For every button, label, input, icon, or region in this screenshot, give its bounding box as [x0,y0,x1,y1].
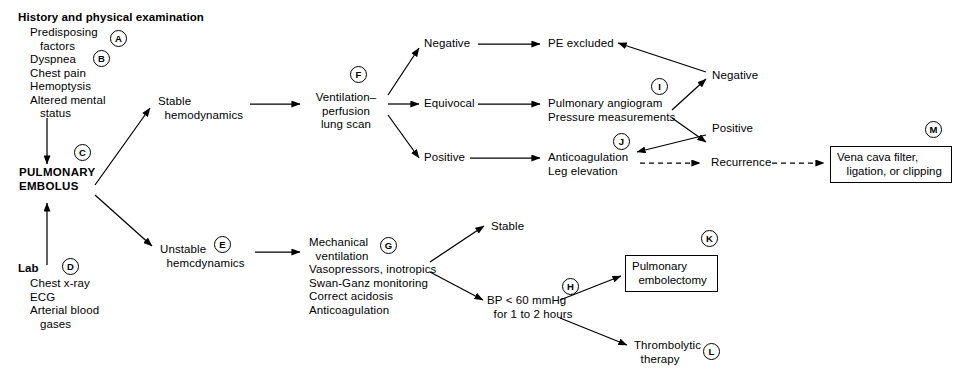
node-stable-hemodynamics: Stable hemodynamics [158,95,243,122]
node-stable-outcome: Stable [491,220,524,234]
node-angio-positive: Positive [712,122,753,136]
lab-heading: Lab [18,262,39,276]
node-pulmonary-embolus: PULMONARY EMBOLUS [19,166,95,193]
lab-items: Chest x-ray ECG Arterial blood gases [30,277,99,331]
node-vq-positive: Positive [424,151,465,165]
connector-angio-positive-to-anticoagulation [637,135,706,152]
node-thrombolytic-therapy: Thrombolytic therapy [634,339,701,366]
node-vena-cava-filter: Vena cava filter, ligation, or clipping [830,146,952,183]
node-vq-negative: Negative [424,37,470,51]
node-pulmonary-embolectomy: Pulmonary embolectomy [625,255,718,292]
marker-d[interactable]: D [62,258,79,275]
node-anticoagulation: Anticoagulation Leg elevation [548,151,628,178]
marker-k[interactable]: K [701,230,718,247]
node-recurrence: Recurrence [711,156,771,170]
node-pe-excluded: PE excluded [548,37,614,51]
marker-j[interactable]: J [613,133,630,150]
node-unstable-hemodynamics: Unstable hemcdynamics [160,243,244,270]
flowchart-canvas: History and physical examination Predisp… [0,0,959,383]
marker-e[interactable]: E [214,236,231,253]
marker-h[interactable]: H [562,278,579,295]
connector-layer [0,0,959,383]
marker-l[interactable]: L [703,343,720,360]
marker-c[interactable]: C [74,144,91,161]
history-heading: History and physical examination [18,11,204,25]
node-angio-negative: Negative [712,69,758,83]
marker-g[interactable]: G [380,237,397,254]
connector-supportive-to-stable [430,226,484,262]
connector-supportive-to-hypotension [430,272,483,300]
connector-angio-negative-to-pe-excluded [618,43,706,72]
node-vq-equivocal: Equivocal [424,97,475,111]
connector-vq-to-negative [388,48,419,95]
connector-angiogram-to-positive [672,118,706,142]
connector-vq-to-positive [388,115,419,158]
connector-angiogram-to-negative [672,79,706,110]
marker-b[interactable]: B [93,50,110,67]
connector-hypotension-to-thrombolytic [560,318,627,345]
history-items: Predisposing factors Dyspnea Chest pain … [30,26,106,121]
connector-embolus-to-unstable [95,195,152,246]
marker-f[interactable]: F [350,66,367,83]
marker-i[interactable]: I [651,78,668,95]
node-vq-scan: Ventilation– perfusion lung scan [303,91,389,132]
node-angiogram: Pulmonary angiogram Pressure measurement… [548,97,675,124]
marker-m[interactable]: M [925,121,942,138]
node-supportive-care: Mechanical ventilation Vasopressors, ino… [309,236,436,317]
marker-a[interactable]: A [110,30,127,47]
node-hypotension: BP < 60 mmHg for 1 to 2 hours [487,294,573,321]
